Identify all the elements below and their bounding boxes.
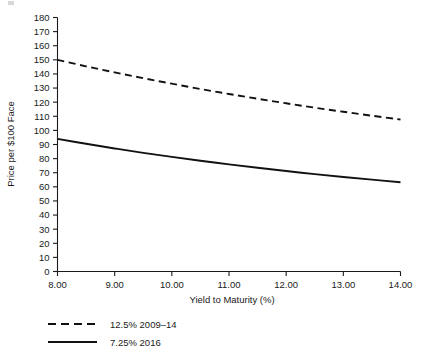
- y-tick-label: 20: [39, 238, 50, 249]
- series-line-7-25-2016: [58, 139, 401, 182]
- legend: 12.5% 2009–14 7.25% 2016: [48, 319, 177, 348]
- x-tick-label: 14.00: [389, 279, 413, 290]
- series-line-12-5-2009-14: [58, 60, 401, 120]
- y-tick-label: 90: [39, 139, 50, 150]
- x-tick-label: 8.00: [48, 279, 67, 290]
- y-tick-label: 170: [34, 26, 50, 37]
- y-axis-title: Price per $100 Face: [5, 101, 16, 187]
- y-tick-label: 0: [44, 266, 49, 277]
- legend-label-0: 12.5% 2009–14: [110, 319, 177, 330]
- x-tick-label: 11.00: [217, 279, 240, 290]
- chart-canvas: 0102030405060708090100110120130140150160…: [0, 0, 422, 354]
- y-tick-label: 150: [34, 54, 50, 65]
- y-tick-label: 120: [34, 97, 50, 108]
- legend-label-1: 7.25% 2016: [110, 337, 161, 348]
- y-tick-label: 70: [39, 167, 50, 178]
- y-tick-label: 50: [39, 195, 50, 206]
- x-axis-ticks: 8.009.0010.0011.0012.0013.0014.00: [48, 272, 412, 290]
- y-tick-label: 10: [39, 252, 50, 263]
- axis-lines: [58, 18, 401, 272]
- y-tick-label: 100: [34, 125, 50, 136]
- y-tick-label: 30: [39, 224, 50, 235]
- x-axis-title: Yield to Maturity (%): [189, 294, 274, 305]
- x-tick-label: 9.00: [105, 279, 124, 290]
- y-tick-label: 130: [34, 82, 50, 93]
- y-tick-label: 80: [39, 153, 50, 164]
- x-tick-label: 12.00: [274, 279, 298, 290]
- x-tick-label: 10.00: [160, 279, 184, 290]
- x-tick-label: 13.00: [331, 279, 355, 290]
- y-axis-ticks: 0102030405060708090100110120130140150160…: [34, 12, 58, 277]
- chart-figure: 0102030405060708090100110120130140150160…: [0, 0, 422, 354]
- y-tick-label: 180: [34, 12, 50, 23]
- y-tick-label: 40: [39, 209, 50, 220]
- y-tick-label: 110: [34, 111, 49, 122]
- y-tick-label: 140: [34, 68, 50, 79]
- y-tick-label: 160: [34, 40, 50, 51]
- y-tick-label: 60: [39, 181, 50, 192]
